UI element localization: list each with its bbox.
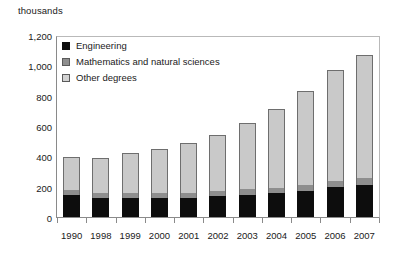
x-axis-label-2004: 2004 <box>262 230 291 241</box>
x-axis-label-2003: 2003 <box>233 230 262 241</box>
bar-column <box>350 37 379 217</box>
bar-stack <box>180 143 197 217</box>
x-axis-label-1990: 1990 <box>57 230 86 241</box>
y-axis-tick-label: 400 <box>36 152 52 163</box>
bar-segment-engineering <box>297 191 314 217</box>
bar-segment-engineering <box>356 185 373 217</box>
bar-stack <box>209 135 226 217</box>
x-axis-tick-mark <box>145 218 146 223</box>
bar-segment-other-degrees <box>297 91 314 185</box>
x-axis-label-2005: 2005 <box>291 230 320 241</box>
bar-segment-engineering <box>63 195 80 217</box>
x-axis-tick-mark <box>350 218 351 223</box>
x-axis-label-2002: 2002 <box>203 230 232 241</box>
bar-stack <box>151 149 168 217</box>
x-axis-tick-mark <box>57 218 58 223</box>
bar-segment-other-degrees <box>92 158 109 194</box>
bar-segment-other-degrees <box>268 109 285 188</box>
x-axis-tickmarks <box>56 218 380 223</box>
x-axis-tick-mark <box>291 218 292 223</box>
legend-item: Other degrees <box>62 72 220 83</box>
bar-stack <box>63 157 80 217</box>
x-axis-tick-mark <box>320 218 321 223</box>
bar-stack <box>239 123 256 217</box>
x-axis-tick-mark <box>203 218 204 223</box>
legend-item-label: Engineering <box>76 40 127 51</box>
bar-segment-other-degrees <box>239 123 256 189</box>
bar-segment-math-natural-sciences <box>356 178 373 185</box>
bar-column <box>291 37 320 217</box>
legend-item-label: Mathematics and natural sciences <box>76 56 220 67</box>
bar-segment-engineering <box>327 187 344 217</box>
x-axis-label-1999: 1999 <box>116 230 145 241</box>
bar-segment-engineering <box>209 196 226 217</box>
chart-legend: EngineeringMathematics and natural scien… <box>62 40 220 83</box>
bar-segment-other-degrees <box>63 157 80 190</box>
legend-item-label: Other degrees <box>76 72 137 83</box>
y-axis-tick-label: 0 <box>47 213 52 224</box>
x-axis-tick-mark <box>86 218 87 223</box>
x-axis-label-2007: 2007 <box>350 230 379 241</box>
bar-segment-other-degrees <box>122 153 139 193</box>
x-axis-label-1998: 1998 <box>86 230 115 241</box>
x-axis-label-2006: 2006 <box>320 230 349 241</box>
bar-segment-engineering <box>92 198 109 217</box>
bar-segment-engineering <box>239 195 256 217</box>
y-axis-tick-label: 600 <box>36 122 52 133</box>
legend-item: Mathematics and natural sciences <box>62 56 220 67</box>
x-axis-labels: 1990199819992000200120022003200420052006… <box>57 230 379 241</box>
bar-segment-engineering <box>151 198 168 217</box>
bar-column <box>233 37 262 217</box>
bar-segment-other-degrees <box>209 135 226 191</box>
x-axis-tick-mark <box>116 218 117 223</box>
x-axis: 1990199819992000200120022003200420052006… <box>56 218 380 258</box>
legend-item: Engineering <box>62 40 220 51</box>
bar-stack <box>268 109 285 217</box>
bar-column <box>320 37 349 217</box>
y-axis-tick-label: 800 <box>36 91 52 102</box>
bar-stack <box>122 153 139 217</box>
bar-column <box>262 37 291 217</box>
bar-stack <box>92 158 109 217</box>
bar-segment-other-degrees <box>356 55 373 178</box>
black-swatch-icon <box>62 42 70 50</box>
light-gray-swatch-icon <box>62 74 70 82</box>
bar-stack <box>327 70 344 217</box>
x-axis-tick-mark <box>379 218 380 223</box>
bar-stack <box>297 91 314 217</box>
x-axis-label-2001: 2001 <box>174 230 203 241</box>
bar-segment-engineering <box>180 198 197 218</box>
bar-segment-engineering <box>122 198 139 218</box>
y-axis-tick-label: 1,200 <box>28 31 52 42</box>
x-axis-tick-mark <box>174 218 175 223</box>
stacked-bar-chart: thousands 1,2001,0008006004002000 199019… <box>0 0 404 260</box>
x-axis-tick-mark <box>233 218 234 223</box>
bar-segment-other-degrees <box>151 149 168 193</box>
bar-segment-other-degrees <box>327 70 344 181</box>
bar-stack <box>356 55 373 217</box>
bar-segment-engineering <box>268 193 285 217</box>
x-axis-tick-mark <box>262 218 263 223</box>
x-axis-label-2000: 2000 <box>145 230 174 241</box>
bar-segment-other-degrees <box>180 143 197 193</box>
y-axis-tick-label: 1,000 <box>28 61 52 72</box>
y-axis-tick-label: 200 <box>36 182 52 193</box>
gray-swatch-icon <box>62 58 70 66</box>
